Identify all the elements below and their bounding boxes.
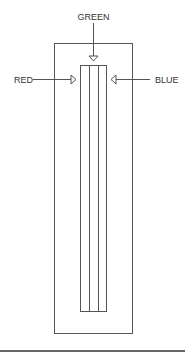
label-blue: BLUE: [155, 75, 179, 85]
green-arrowhead-icon: [89, 56, 98, 61]
label-red: RED: [14, 75, 34, 85]
strip-group: [81, 66, 107, 312]
diagram-canvas: GREEN RED BLUE: [0, 0, 185, 354]
label-green: GREEN: [77, 12, 109, 22]
red-arrowhead-icon: [71, 75, 76, 84]
outer-frame: [55, 44, 133, 334]
blue-arrowhead-icon: [111, 75, 116, 84]
